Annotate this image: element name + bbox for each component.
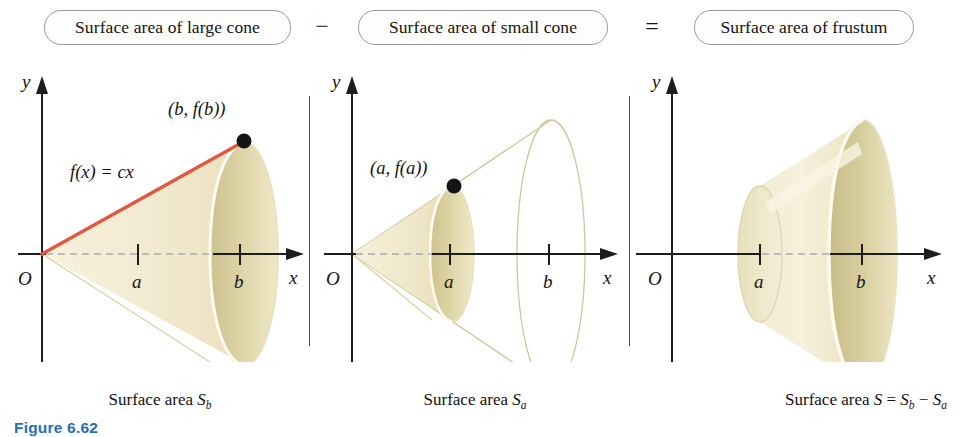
caption-symbol: S (512, 390, 521, 409)
header-caption-row: Surface area of large cone − Surface are… (0, 0, 962, 62)
x-axis-label: x (926, 267, 936, 288)
caption-box-small-cone: Surface area of small cone (358, 10, 608, 45)
origin-label: O (326, 268, 340, 289)
caption-subscript: b (206, 399, 212, 411)
panel-caption-frustum: Surface area S = Sb − Sa (630, 390, 962, 411)
y-axis-arrowhead (346, 76, 358, 94)
small-cone-figure: y x O a b (a, f(a)) (310, 62, 640, 362)
y-axis-label: y (20, 71, 31, 92)
y-axis-label: y (330, 71, 341, 92)
origin-label: O (18, 268, 32, 289)
point-label-b-fb: (b, f(b)) (168, 99, 226, 120)
y-axis-label: y (650, 71, 661, 92)
caption-box-large-cone: Surface area of large cone (44, 10, 291, 45)
y-axis-arrowhead (666, 76, 678, 94)
panel-small-cone: y x O a b (a, f(a)) Surface area Sa (310, 62, 640, 433)
panel-caption-small-cone: Surface area Sa (310, 390, 640, 411)
panel-caption-large-cone: Surface area Sb (0, 390, 320, 411)
tick-label-a: a (132, 271, 142, 292)
figure-number-label: Figure 6.62 (14, 419, 98, 437)
tick-label-b: b (543, 271, 553, 292)
caption-prefix: Surface area (785, 390, 874, 409)
caption-symbol: S (197, 390, 206, 409)
large-cone-figure: y x O a b (b, f(b)) f(x) = cx (0, 62, 320, 362)
x-axis-label: x (288, 267, 298, 288)
panel-frustum: y x O a b Surface area S = Sb − Sa (630, 62, 962, 433)
y-axis-arrowhead (36, 76, 48, 94)
caption-equation: S = Sb − Sa (874, 390, 947, 409)
tick-label-a: a (444, 271, 454, 292)
point-marker-a (447, 179, 462, 194)
x-axis-arrowhead (600, 248, 618, 260)
equals-operator-symbol: = (630, 10, 674, 43)
caption-box-frustum: Surface area of frustum (694, 10, 914, 45)
caption-prefix: Surface area (424, 390, 513, 409)
function-label: f(x) = cx (70, 162, 135, 183)
minus-operator-symbol: − (300, 10, 344, 43)
x-axis-label: x (602, 267, 612, 288)
caption-subscript: a (521, 399, 527, 411)
tick-label-b: b (856, 271, 866, 292)
point-marker-b (237, 134, 252, 149)
caption-prefix: Surface area (109, 390, 198, 409)
x-axis-arrowhead (286, 248, 304, 260)
point-label-a-fa: (a, f(a)) (370, 158, 428, 179)
x-axis-arrowhead (924, 248, 942, 260)
origin-label: O (648, 268, 662, 289)
large-cone-outline-ellipse (517, 120, 585, 362)
tick-label-a: a (754, 271, 764, 292)
panel-large-cone: y x O a b (b, f(b)) f(x) = cx Surface ar… (0, 62, 320, 433)
frustum-figure: y x O a b (630, 62, 962, 362)
tick-label-b: b (234, 271, 244, 292)
